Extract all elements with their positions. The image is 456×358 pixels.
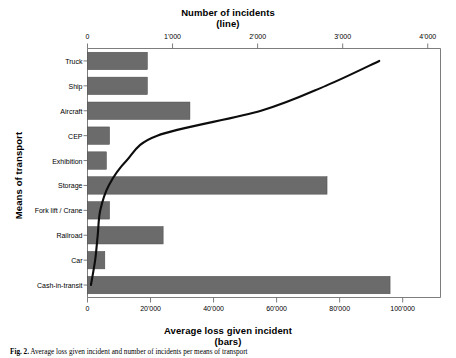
top-axis-title: Number of incidents (line)	[0, 7, 456, 29]
bar-cash-in-transit	[88, 276, 391, 293]
top-tick-label: 3'000	[334, 33, 351, 40]
bars-group	[88, 52, 391, 294]
category-label: Truck	[65, 57, 82, 64]
bottom-tick-label: 20'000	[140, 305, 161, 312]
category-label: Exhibition	[52, 157, 82, 164]
category-label: Railroad	[56, 232, 82, 239]
top-tick-label: 1'000	[164, 33, 181, 40]
category-label: Ship	[68, 82, 82, 89]
category-label: Cash-in-transit	[37, 282, 83, 289]
top-tick-label: 4'000	[419, 33, 436, 40]
bar-storage	[88, 177, 328, 194]
bottom-axis-title-line2: (bars)	[215, 336, 242, 347]
bottom-axis-title: Average loss given incident (bars)	[0, 325, 456, 347]
top-axis-title-line2: (line)	[216, 18, 239, 29]
bar-truck	[88, 52, 148, 69]
bar-aircraft	[88, 102, 190, 119]
top-tick-label: 0	[86, 33, 90, 40]
top-tick-label: 2'000	[249, 33, 266, 40]
bottom-tick-label: 80'000	[329, 305, 350, 312]
category-label: CEP	[68, 132, 82, 139]
bar-cep	[88, 127, 110, 144]
caption-label: Fig. 2.	[10, 348, 29, 356]
figure-caption: Fig. 2. Average loss given incident and …	[10, 348, 450, 358]
bottom-tick-label: 0	[86, 305, 90, 312]
plot-area	[0, 0, 456, 358]
y-axis-title: Means of transport	[13, 86, 24, 266]
bottom-tick-label: 60'000	[266, 305, 287, 312]
bottom-axis-title-line1: Average loss given incident	[164, 325, 292, 336]
top-axis-title-line1: Number of incidents	[181, 7, 275, 18]
bar-ship	[88, 77, 148, 94]
figure-container: Number of incidents (line) Average loss …	[0, 0, 456, 358]
category-label: Fork lift / Crane	[35, 207, 83, 214]
bottom-tick-label: 100'000	[390, 305, 415, 312]
category-label: Car	[71, 257, 82, 264]
category-label: Aircraft	[60, 107, 82, 114]
category-label: Storage	[58, 182, 83, 189]
bottom-tick-label: 40'000	[203, 305, 224, 312]
bar-exhibition	[88, 152, 107, 169]
caption-text: Average loss given incident and number o…	[29, 348, 248, 356]
